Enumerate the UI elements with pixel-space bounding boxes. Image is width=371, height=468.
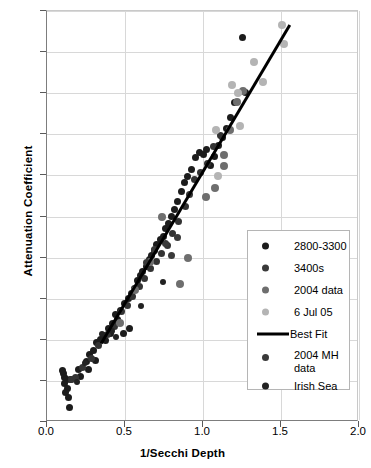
legend-item: Best Fit (248, 325, 349, 343)
legend-line-swatch (257, 333, 289, 336)
y-tick-mark (40, 92, 46, 93)
data-point (184, 173, 191, 180)
data-point (278, 21, 286, 29)
legend-label: 6 Jul 05 (294, 306, 333, 318)
legend-marker-swatch (262, 309, 269, 316)
data-point (160, 279, 166, 285)
y-tick-mark (40, 257, 46, 258)
y-gridline (47, 134, 357, 135)
data-point (181, 179, 188, 186)
data-point (65, 394, 72, 401)
data-point (220, 162, 228, 170)
data-point (116, 319, 124, 327)
y-tick-mark (40, 216, 46, 217)
data-point (175, 218, 182, 225)
legend-label: 2004 data (294, 284, 343, 296)
x-axis-title: 1/Secchi Depth (0, 447, 365, 459)
legend-marker-swatch (262, 287, 269, 294)
legend-label: 2004 MH (294, 349, 339, 361)
x-tick-label: 1.5 (258, 426, 302, 438)
y-tick-mark (40, 133, 46, 134)
legend-label: 3400s (294, 262, 324, 274)
x-gridline (125, 11, 126, 420)
y-axis-title: Attenuation Coefficient (22, 91, 34, 331)
y-tick-mark (40, 51, 46, 52)
y-tick-mark (40, 380, 46, 381)
legend-label: Best Fit (290, 328, 327, 340)
x-tick-label: 2.0 (336, 426, 371, 438)
data-point (234, 89, 242, 97)
data-point (113, 334, 119, 340)
data-point (239, 34, 246, 41)
y-tick-mark (40, 10, 46, 11)
legend-item: 2004 MHdata (248, 347, 349, 377)
legend-item: 2004 data (248, 281, 349, 299)
data-point (184, 254, 192, 262)
y-tick-mark (40, 298, 46, 299)
y-tick-mark (40, 174, 46, 175)
legend-label-line2: data (294, 362, 315, 374)
legend-marker-swatch (262, 243, 269, 250)
data-point (138, 303, 144, 309)
data-point (158, 250, 165, 257)
y-tick-mark (40, 339, 46, 340)
y-gridline (47, 217, 357, 218)
data-point (74, 379, 80, 385)
data-point (88, 355, 95, 362)
data-point (236, 122, 244, 130)
y-gridline (47, 93, 357, 94)
legend-item: 2800-3300 (248, 237, 349, 255)
y-gridline (47, 52, 357, 53)
data-point (158, 213, 166, 221)
data-point (211, 184, 219, 192)
x-gridline (359, 11, 360, 420)
data-point (214, 172, 222, 180)
data-point (126, 325, 133, 332)
data-point (228, 81, 236, 89)
data-point (174, 234, 181, 241)
data-point (202, 193, 210, 201)
y-gridline (47, 11, 357, 12)
legend-item: 6 Jul 05 (248, 303, 349, 321)
data-point (259, 78, 267, 86)
x-gridline (203, 11, 204, 420)
chart-legend: 2800-33003400s2004 data6 Jul 05Best Fit2… (247, 230, 350, 390)
legend-item: Irish Sea (248, 377, 349, 395)
data-point (176, 280, 184, 288)
legend-marker-swatch (262, 383, 269, 390)
data-point (188, 166, 195, 173)
data-point (147, 265, 154, 272)
data-point (66, 404, 73, 411)
legend-marker-swatch (262, 265, 269, 272)
x-tick-label: 0.5 (102, 426, 146, 438)
legend-item: 3400s (248, 259, 349, 277)
x-tick-label: 0.0 (24, 426, 68, 438)
data-point (250, 58, 258, 66)
x-tick-label: 1.0 (180, 426, 224, 438)
legend-marker-swatch (262, 354, 269, 361)
data-point (174, 198, 181, 205)
data-point (220, 151, 228, 159)
legend-label: Irish Sea (294, 380, 337, 392)
legend-label: 2800-3300 (294, 240, 347, 252)
data-point (178, 188, 185, 195)
data-point (120, 330, 127, 337)
data-point (203, 146, 210, 153)
